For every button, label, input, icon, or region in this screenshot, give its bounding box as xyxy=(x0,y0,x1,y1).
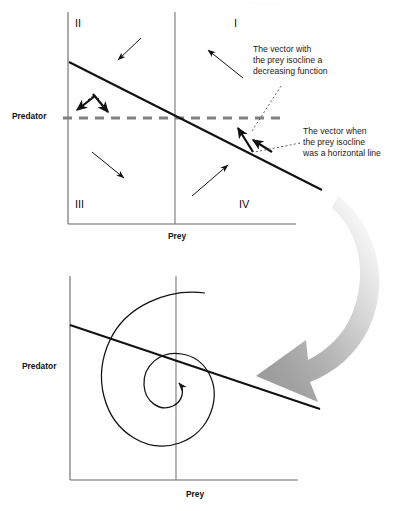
bottom-y-axis-label: Predator xyxy=(22,361,56,371)
bottom-x-axis-label: Prey xyxy=(186,489,204,499)
annotation-horizontal-line-2: the prey isocline xyxy=(303,137,381,148)
annotation-horizontal-line-3: was a horizontal line xyxy=(303,148,381,159)
annotation-decreasing-isocline: The vector with the prey isocline a decr… xyxy=(253,44,328,78)
figure-container: chapter figure xyxy=(0,0,412,511)
annotation-decreasing-line-1: The vector with xyxy=(253,44,328,55)
annotation-decreasing-line-2: the prey isocline a xyxy=(253,55,328,66)
vector-pair-quadrant-4 xyxy=(238,128,272,152)
damped-spiral-trajectory xyxy=(102,292,215,446)
quadrant-label-3: III xyxy=(75,198,84,210)
vector-quadrant-3 xyxy=(92,152,124,178)
bottom-axes xyxy=(70,276,298,480)
annotation-horizontal-isocline: The vector when the prey isocline was a … xyxy=(303,126,381,160)
annotation-horizontal-line-1: The vector when xyxy=(303,126,381,137)
prey-isocline-decreasing-bottom xyxy=(70,325,320,409)
leader-line-decreasing xyxy=(252,86,281,131)
vector-quadrant-1 xyxy=(208,50,243,78)
vector-quadrant-4 xyxy=(192,165,228,196)
quadrant-label-1: I xyxy=(234,17,237,29)
prey-isocline-decreasing-top xyxy=(69,62,322,190)
top-y-axis-label: Predator xyxy=(12,111,46,121)
annotation-decreasing-line-3: decreasing function xyxy=(253,66,328,77)
bottom-phase-plane-svg xyxy=(0,262,412,511)
vector-pair-quadrant-2 xyxy=(77,94,108,112)
top-x-axis-label: Prey xyxy=(168,231,186,241)
quadrant-label-2: II xyxy=(75,17,81,29)
vector-quadrant-2 xyxy=(118,38,141,60)
